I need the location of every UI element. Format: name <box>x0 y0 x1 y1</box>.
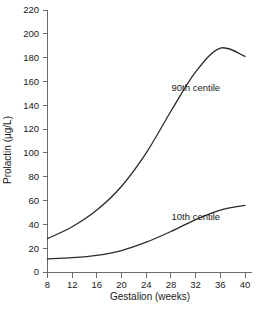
y-axis-title: Prolactin (µg/L) <box>2 116 13 184</box>
series-group <box>48 48 246 259</box>
x-tick-group: 81216202428323640 <box>45 273 250 291</box>
prolactin-gestation-chart: 020406080100120140160180200220 812162024… <box>0 0 265 309</box>
chart-canvas: 020406080100120140160180200220 812162024… <box>0 0 265 309</box>
y-tick-label-200: 200 <box>23 28 39 39</box>
x-tick-label-12: 12 <box>67 279 78 290</box>
x-axis-title: Gestalion (weeks) <box>110 291 190 302</box>
annotation-group: 90th centile10th centile <box>172 82 221 222</box>
series-label-90th-centile: 90th centile <box>172 82 221 93</box>
y-tick-label-120: 120 <box>23 123 39 134</box>
y-tick-label-60: 60 <box>28 195 39 206</box>
y-tick-label-40: 40 <box>28 219 39 230</box>
y-tick-label-100: 100 <box>23 147 39 158</box>
y-tick-label-160: 160 <box>23 76 39 87</box>
x-tick-label-28: 28 <box>166 279 177 290</box>
y-tick-label-80: 80 <box>28 171 39 182</box>
y-tick-label-0: 0 <box>34 266 39 277</box>
x-tick-label-24: 24 <box>141 279 152 290</box>
x-tick-label-32: 32 <box>190 279 201 290</box>
y-tick-label-20: 20 <box>28 243 39 254</box>
series-label-10th-centile: 10th centile <box>172 211 221 222</box>
y-axis-group: 020406080100120140160180200220 <box>23 4 47 277</box>
x-axis-group: 81216202428323640 <box>45 273 252 291</box>
x-tick-label-20: 20 <box>116 279 127 290</box>
x-tick-label-40: 40 <box>240 279 251 290</box>
y-tick-label-220: 220 <box>23 4 39 15</box>
y-tick-label-180: 180 <box>23 52 39 63</box>
y-tick-group: 020406080100120140160180200220 <box>23 4 47 277</box>
y-tick-label-140: 140 <box>23 100 39 111</box>
x-tick-label-16: 16 <box>92 279 103 290</box>
x-tick-label-36: 36 <box>215 279 226 290</box>
x-tick-label-8: 8 <box>45 279 50 290</box>
